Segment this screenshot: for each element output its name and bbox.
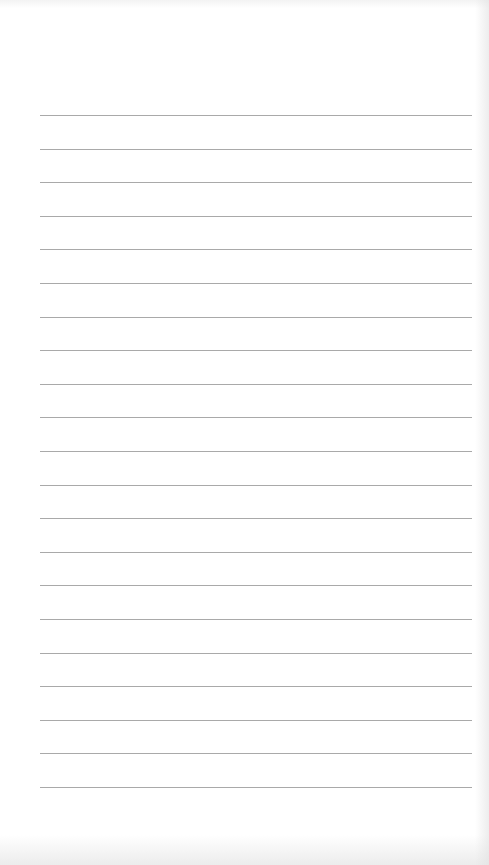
- ruled-line: [40, 182, 472, 183]
- ruled-line: [40, 686, 472, 687]
- ruled-line: [40, 518, 472, 519]
- ruled-line: [40, 585, 472, 586]
- ruled-line: [40, 216, 472, 217]
- ruled-line: [40, 619, 472, 620]
- ruled-line: [40, 417, 472, 418]
- lined-paper-page: [0, 0, 489, 865]
- ruled-line: [40, 249, 472, 250]
- ruled-line: [40, 485, 472, 486]
- ruled-line: [40, 350, 472, 351]
- ruled-line: [40, 149, 472, 150]
- ruled-line: [40, 753, 472, 754]
- ruled-line: [40, 384, 472, 385]
- ruled-line: [40, 283, 472, 284]
- ruled-line: [40, 115, 472, 116]
- ruled-line: [40, 552, 472, 553]
- ruled-line: [40, 787, 472, 788]
- ruled-line: [40, 653, 472, 654]
- ruled-line: [40, 317, 472, 318]
- ruled-line: [40, 451, 472, 452]
- ruled-line: [40, 720, 472, 721]
